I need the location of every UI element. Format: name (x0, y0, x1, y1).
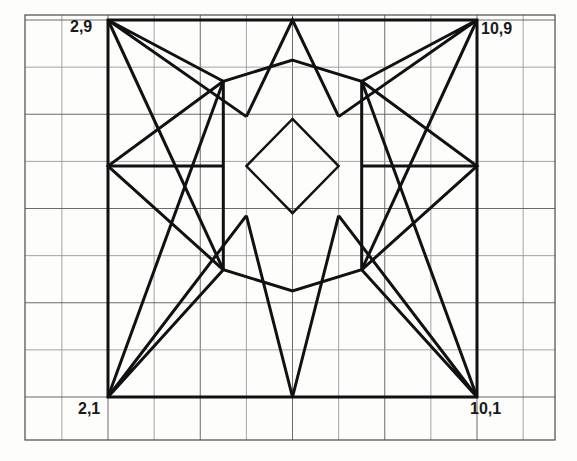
figure-corner-ray-top-left-long (108, 20, 223, 270)
coordinate-label-bottom-right: 10,1 (470, 400, 501, 418)
coordinate-label-bottom-left: 2,1 (78, 400, 100, 418)
figure-corner-rays-bottom-left (108, 216, 246, 397)
coordinate-label-top-right: 10,9 (481, 20, 512, 38)
coordinate-label-top-left: 2,9 (70, 18, 92, 36)
figure-corner-ray-top-right-long (362, 20, 477, 270)
figure-canvas (0, 0, 577, 461)
figure-corner-rays-bottom-right (339, 216, 477, 397)
graph-paper-figure: 2,9 10,9 2,1 10,1 (0, 0, 577, 461)
